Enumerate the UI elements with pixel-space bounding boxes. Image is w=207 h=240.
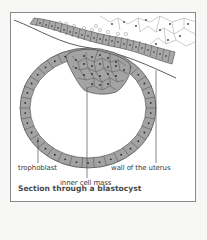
label-wall-of-uterus: wall of the uterus: [111, 164, 170, 172]
blastocyst: [20, 48, 156, 168]
label-trophoblast: trophoblast: [18, 164, 57, 172]
figure-caption: Section through a blastocyst: [18, 184, 141, 193]
